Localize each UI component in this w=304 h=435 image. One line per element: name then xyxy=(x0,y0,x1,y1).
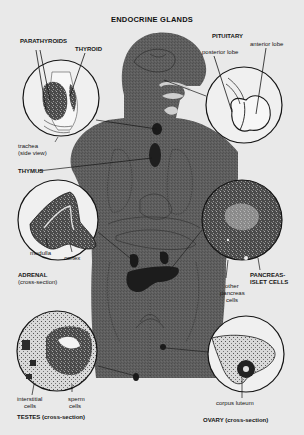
corpus-luteum-label: corpus luteum xyxy=(216,400,254,407)
ovary-inset xyxy=(208,316,284,392)
cortex-label: cortex xyxy=(64,255,80,262)
pancreas-inset xyxy=(202,180,282,260)
thyroid-label: THYROID xyxy=(75,46,102,53)
pancreas-islet-label-1: PANCREAS- xyxy=(250,272,285,279)
sperm-cells-label-2: cells xyxy=(69,403,81,410)
interstitial-cells-label-1: interstitial xyxy=(17,396,42,403)
testes-label: TESTES (cross-section) xyxy=(17,414,85,421)
other-pancreas-label-2: pancreas xyxy=(220,290,245,297)
pituitary-inset xyxy=(206,67,282,143)
thymus-label: THYMUS xyxy=(18,168,43,175)
endocrine-diagram: ENDOCRINE GLANDS PARATHYROIDS THYROID tr… xyxy=(0,0,304,435)
diagram-title: ENDOCRINE GLANDS xyxy=(0,15,304,24)
medulla-label: medulla xyxy=(30,250,51,257)
other-pancreas-label-3: cells xyxy=(226,297,238,304)
testes-inset xyxy=(17,311,97,391)
adrenal-label: ADRENAL xyxy=(18,272,47,279)
thyroid-inset xyxy=(23,60,99,136)
ovary-label: OVARY (cross-section) xyxy=(203,417,268,424)
trachea-sublabel: (side view) xyxy=(18,150,47,157)
adrenal-inset xyxy=(18,180,98,260)
interstitial-cells-label-2: cells xyxy=(24,403,36,410)
sperm-cells-label-1: sperm xyxy=(68,396,85,403)
adrenal-sublabel: (cross-section) xyxy=(18,279,57,286)
trachea-label: trachea xyxy=(18,143,38,150)
other-pancreas-label-1: other xyxy=(225,283,239,290)
anterior-lobe-label: anterior lobe xyxy=(250,41,283,48)
pancreas-islet-label-2: ISLET CELLS xyxy=(250,279,288,286)
pituitary-label: PITUITARY xyxy=(212,33,243,40)
parathyroids-label: PARATHYROIDS xyxy=(20,38,67,45)
posterior-lobe-label: posterior lobe xyxy=(202,49,238,56)
diagram-illustration xyxy=(0,0,304,435)
